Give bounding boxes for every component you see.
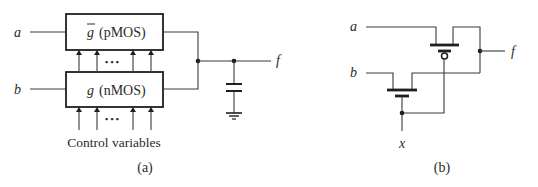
diagram-a: a b g (pMOS) g (nMOS) • • • bbox=[14, 14, 282, 176]
input-b-label: b bbox=[14, 82, 21, 97]
circuit-figure: a b g (pMOS) g (nMOS) • • • bbox=[0, 0, 538, 187]
x-junction-dot bbox=[400, 111, 405, 116]
ground-icon bbox=[226, 113, 242, 119]
input-b-label-b: b bbox=[350, 65, 357, 80]
output-merge-wire bbox=[163, 32, 198, 89]
diagram-b: a f b x (b) bbox=[350, 19, 517, 176]
load-capacitor bbox=[226, 61, 242, 113]
pmos-transistor bbox=[430, 27, 480, 73]
nmos-transistor bbox=[387, 73, 480, 131]
nmos-label: (nMOS) bbox=[99, 83, 146, 99]
output-f-label-b: f bbox=[511, 44, 517, 59]
caption-b: (b) bbox=[434, 160, 451, 176]
nmos-symbol: g bbox=[87, 83, 94, 98]
control-ellipsis: • • • bbox=[105, 114, 119, 124]
control-variables-label: Control variables bbox=[67, 135, 160, 150]
input-a-wire-b bbox=[366, 27, 436, 44]
input-b-wire-b bbox=[366, 73, 393, 89]
internal-ellipsis: • • • bbox=[105, 57, 119, 67]
input-a-label-b: a bbox=[350, 19, 357, 34]
input-a-label: a bbox=[14, 25, 21, 40]
x-to-pmos-wire bbox=[402, 59, 444, 113]
caption-a: (a) bbox=[137, 160, 153, 176]
pmos-label: (pMOS) bbox=[99, 25, 146, 41]
pmos-symbol: g bbox=[87, 25, 94, 40]
output-f-label: f bbox=[276, 53, 282, 68]
input-x-label: x bbox=[398, 136, 406, 151]
